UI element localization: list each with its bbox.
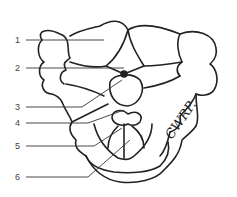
label-5: 5 [15, 142, 20, 151]
label-6: 6 [15, 173, 20, 182]
label-3: 3 [15, 103, 20, 112]
diagram-figure [0, 0, 237, 197]
label-1: 1 [15, 36, 20, 45]
anatomy-drawing [0, 0, 237, 197]
label-4: 4 [15, 119, 20, 128]
label-2: 2 [15, 64, 20, 73]
